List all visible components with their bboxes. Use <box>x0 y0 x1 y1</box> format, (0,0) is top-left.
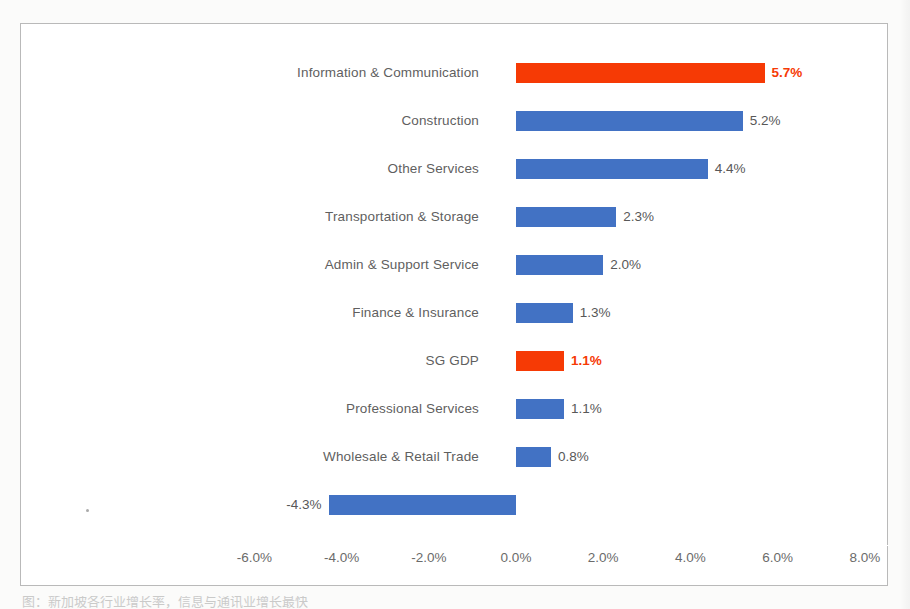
bar-row: SG GDP1.1% <box>21 337 889 385</box>
bar-track: 0.8% <box>21 433 889 481</box>
bar-row: Other Services4.4% <box>21 145 889 193</box>
bar-row: Wholesale & Retail Trade0.8% <box>21 433 889 481</box>
bar-value-label: 2.0% <box>610 255 641 275</box>
bar[interactable] <box>516 303 573 323</box>
bar-value-label: 2.3% <box>623 207 654 227</box>
bar[interactable] <box>516 447 551 467</box>
bar-row: Professional Services1.1% <box>21 385 889 433</box>
bar[interactable] <box>516 207 616 227</box>
figure-caption: 图：新加坡各行业增长率，信息与通讯业增长最快 <box>22 596 422 609</box>
bar-value-label: 1.3% <box>580 303 611 323</box>
bar-value-label: -4.3% <box>222 495 322 515</box>
x-axis-tick: 4.0% <box>650 550 730 565</box>
bar-value-label: 1.1% <box>571 351 602 371</box>
bar-row: Manfacturing-4.3% <box>21 481 889 529</box>
x-axis-tick-labels: -6.0%-4.0%-2.0%0.0%2.0%4.0%6.0%8.0% <box>21 550 889 578</box>
bar[interactable] <box>516 111 743 131</box>
bar-value-label: 1.1% <box>571 399 602 419</box>
bar[interactable] <box>516 255 603 275</box>
bar-track: 1.1% <box>21 385 889 433</box>
bar-row: Admin & Support Service2.0% <box>21 241 889 289</box>
bar[interactable] <box>516 399 564 419</box>
chart-frame: Information & Communication5.7%Construct… <box>20 23 888 586</box>
bar-track: 5.7% <box>21 49 889 97</box>
bar-track: 1.1% <box>21 337 889 385</box>
x-axis-tick: 2.0% <box>563 550 643 565</box>
x-axis-tick: 0.0% <box>476 550 556 565</box>
x-axis-line <box>21 545 889 546</box>
bar-track: 2.3% <box>21 193 889 241</box>
bar-row: Construction5.2% <box>21 97 889 145</box>
bar-row: Finance & Insurance1.3% <box>21 289 889 337</box>
bar[interactable] <box>329 495 516 515</box>
bar-row: Transportation & Storage2.3% <box>21 193 889 241</box>
bar-track: 5.2% <box>21 97 889 145</box>
scanned-page: Information & Communication5.7%Construct… <box>0 0 910 609</box>
bar-value-label: 5.2% <box>750 111 781 131</box>
bar-value-label: 5.7% <box>772 63 803 83</box>
bar-track: -4.3% <box>21 481 889 529</box>
bar[interactable] <box>516 63 765 83</box>
plot-area: Information & Communication5.7%Construct… <box>21 24 889 587</box>
scan-artifact-speck <box>86 509 89 512</box>
bar[interactable] <box>516 159 708 179</box>
x-axis-tick: -2.0% <box>389 550 469 565</box>
figure-caption-text: 图：新加坡各行业增长率，信息与通讯业增长最快 <box>22 596 422 608</box>
bar-value-label: 4.4% <box>715 159 746 179</box>
scan-edge-shading <box>900 0 910 609</box>
bar[interactable] <box>516 351 564 371</box>
x-axis-tick: 6.0% <box>738 550 818 565</box>
x-axis-tick: -6.0% <box>214 550 294 565</box>
bar-track: 4.4% <box>21 145 889 193</box>
x-axis-tick: 8.0% <box>825 550 905 565</box>
bar-value-label: 0.8% <box>558 447 589 467</box>
bar-row: Information & Communication5.7% <box>21 49 889 97</box>
bar-track: 1.3% <box>21 289 889 337</box>
x-axis-tick: -4.0% <box>302 550 382 565</box>
bar-track: 2.0% <box>21 241 889 289</box>
